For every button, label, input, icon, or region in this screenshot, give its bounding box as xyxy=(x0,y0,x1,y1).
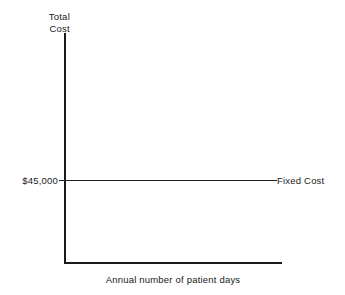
fixed-cost-series-line xyxy=(59,180,277,181)
y-axis-title-line-2: Cost xyxy=(0,23,70,35)
x-axis-title: Annual number of patient days xyxy=(63,274,283,285)
y-axis-line xyxy=(64,33,66,264)
y-axis-title: Total Cost xyxy=(0,11,70,34)
fixed-cost-chart: Total Cost $45,000 Fixed Cost Annual num… xyxy=(0,0,345,295)
y-axis-title-line-1: Total xyxy=(0,11,70,23)
x-axis-line xyxy=(64,262,282,264)
y-axis-tick-label-45000: $45,000 xyxy=(0,175,58,186)
fixed-cost-series-label: Fixed Cost xyxy=(277,175,324,186)
